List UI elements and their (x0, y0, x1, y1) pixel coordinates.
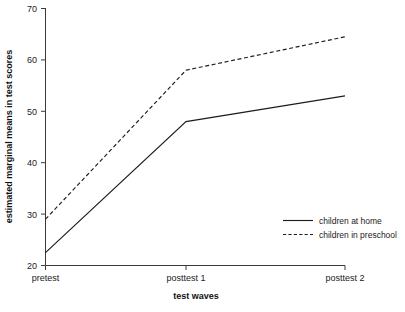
x-tick-label-pretest: pretest (32, 273, 60, 283)
x-tick-label-posttest-2: posttest 2 (325, 273, 364, 283)
x-axis-title: test waves (173, 291, 219, 301)
y-axis-title: estimated marginal means in test scores (4, 50, 14, 224)
x-tick-label-posttest-1: posttest 1 (166, 273, 205, 283)
y-tick-label-70: 70 (27, 4, 37, 14)
y-tick-label-60: 60 (27, 55, 37, 65)
y-tick-label-30: 30 (27, 210, 37, 220)
line-chart: 70 60 50 40 30 20 pretest posttest 1 pos… (0, 0, 405, 312)
y-tick-label-40: 40 (27, 158, 37, 168)
y-tick-label-50: 50 (27, 107, 37, 117)
legend-label-children-in-preschool: children in preschool (319, 230, 397, 240)
y-tick-label-20: 20 (27, 261, 37, 271)
chart-canvas: 70 60 50 40 30 20 pretest posttest 1 pos… (0, 0, 405, 312)
legend-label-children-at-home: children at home (319, 216, 382, 226)
